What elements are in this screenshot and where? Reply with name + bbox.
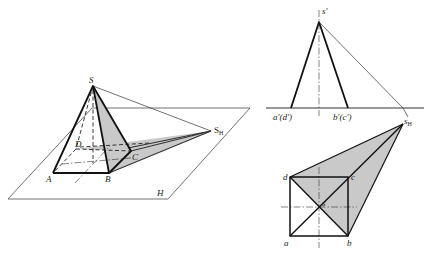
front-light-ray — [319, 22, 403, 108]
label-s-prime: s′ — [322, 6, 329, 16]
label-s: S — [89, 75, 94, 85]
hidden-edge-da — [53, 149, 76, 173]
top-view: sH d c a b s — [281, 116, 413, 248]
label-h: H — [156, 188, 164, 198]
label-b-prime: b′(c′) — [333, 112, 351, 122]
pictorial-view: S A B C D H SH — [8, 75, 250, 199]
label-c: C — [132, 152, 139, 162]
label-s-top: s — [322, 198, 326, 208]
label-a-top: a — [284, 238, 289, 248]
label-b-top: b — [347, 238, 352, 248]
label-b: B — [105, 174, 111, 184]
label-a: A — [45, 174, 52, 184]
label-sh: SH — [214, 125, 224, 136]
label-d: D — [74, 139, 82, 149]
label-c-top: c — [351, 172, 355, 182]
label-sh-top: sH — [404, 116, 413, 127]
front-pyramid-outline — [291, 22, 348, 108]
front-view: s′ a′(d′) b′(c′) — [266, 6, 424, 122]
label-d-top: d — [283, 172, 288, 182]
label-a-prime: a′(d′) — [273, 112, 292, 122]
pyramid-shadow-diagram: S A B C D H SH s′ a′(d′) b′(c′) sH d c a… — [0, 0, 425, 257]
